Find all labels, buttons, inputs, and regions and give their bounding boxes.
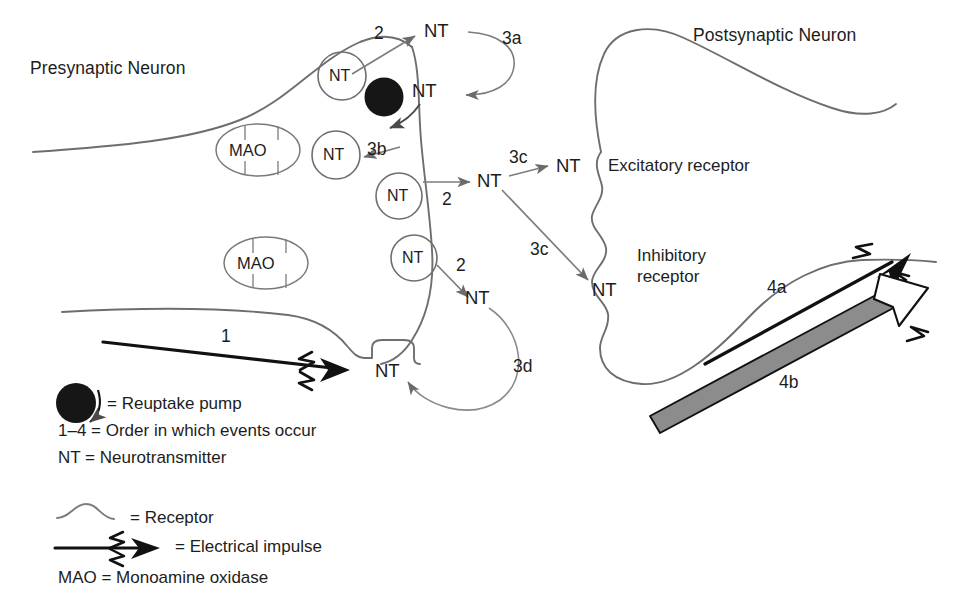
step-label-3b: 3b (367, 140, 386, 160)
postsynaptic-membrane-upper (595, 29, 896, 152)
step-label-2-mid: 2 (442, 190, 452, 210)
excitatory-receptor-label: Excitatory receptor (608, 156, 750, 175)
reuptake-pump-disc (365, 78, 404, 117)
autoreceptor-loop-3d (408, 308, 519, 410)
legend-reuptake-pump-icon (56, 383, 96, 423)
mao-label-2: MAO (237, 254, 275, 272)
legend-nt-text: NT = Neurotransmitter (58, 448, 226, 467)
binding-arrow-inhibitory-3c (502, 190, 588, 280)
vesicle-label-3: NT (387, 187, 408, 205)
vesicle-label-2: NT (323, 146, 344, 164)
step-label-2-top: 2 (374, 24, 384, 44)
nt-label-inhibitory-bound: NT (592, 280, 617, 301)
inhibitory-receptor-label-line2: receptor (637, 267, 706, 288)
legend-receptor-icon (57, 504, 114, 519)
nt-label-reuptake-returning: NT (412, 81, 437, 102)
postsynaptic-neuron-label: Postsynaptic Neuron (693, 26, 856, 46)
diagram-canvas: Presynaptic Neuron Postsynaptic Neuron N… (0, 0, 957, 602)
mao-label-1: MAO (229, 141, 267, 159)
legend-impulse-text: = Electrical impulse (175, 537, 322, 556)
nt-label-terminal-notch: NT (375, 361, 400, 382)
legend-impulse-icon (55, 532, 160, 566)
legend-mao-text: MAO = Monoamine oxidase (58, 568, 268, 587)
step-label-3d: 3d (513, 357, 532, 377)
presynaptic-neuron-label: Presynaptic Neuron (30, 59, 186, 79)
vesicle-label-4: NT (402, 249, 423, 267)
inhibitory-receptor-label: Inhibitory receptor (637, 246, 706, 287)
presynaptic-membrane-lower (62, 309, 420, 364)
nt-label-excitatory-bound: NT (556, 156, 581, 177)
postsynaptic-receptor-edge (592, 152, 608, 348)
step-label-3a: 3a (502, 29, 521, 49)
presynaptic-membrane-upper (33, 37, 412, 152)
step-label-3c-inhibitory: 3c (530, 240, 548, 260)
nt-label-released-top: NT (424, 21, 449, 42)
impulse-arrow-4b (650, 274, 928, 433)
inhibitory-receptor-label-line1: Inhibitory (637, 246, 706, 267)
step-label-2-low: 2 (456, 256, 466, 276)
vesicle-label-1: NT (329, 67, 350, 85)
impulse-arrow-1 (103, 342, 350, 390)
step-label-1: 1 (221, 327, 231, 347)
legend-receptor-text: = Receptor (130, 508, 214, 527)
step-label-3c-excitatory: 3c (509, 148, 527, 168)
step-label-4b: 4b (779, 373, 798, 393)
legend-order-text: 1–4 = Order in which events occur (58, 421, 316, 440)
legend-reuptake-pump-text: = Reuptake pump (107, 394, 242, 413)
nt-label-cleft-lower: NT (465, 288, 490, 309)
nt-label-cleft-mid: NT (477, 171, 502, 192)
step-label-4a: 4a (767, 278, 786, 298)
